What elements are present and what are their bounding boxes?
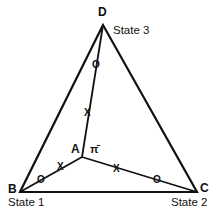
mark-o-ab: O <box>37 175 45 185</box>
state-3-label: State 3 <box>113 25 149 37</box>
mark-o-ac: O <box>153 175 161 185</box>
state-2-label: State 2 <box>171 197 207 209</box>
mark-o-ad: O <box>92 60 100 70</box>
ternary-diagram <box>0 0 221 213</box>
outer-triangle <box>20 25 197 192</box>
vertex-d-label: D <box>98 6 107 18</box>
vertex-c-label: C <box>200 182 209 194</box>
state-1-label: State 1 <box>8 197 44 209</box>
pi-bar-symbol: π̄ <box>90 144 98 155</box>
vertex-b-label: B <box>8 183 17 195</box>
point-a-label: A <box>71 143 80 155</box>
mark-x-ac: X <box>113 164 120 174</box>
mark-x-ad: X <box>84 108 91 118</box>
mark-x-ab: X <box>57 162 64 172</box>
